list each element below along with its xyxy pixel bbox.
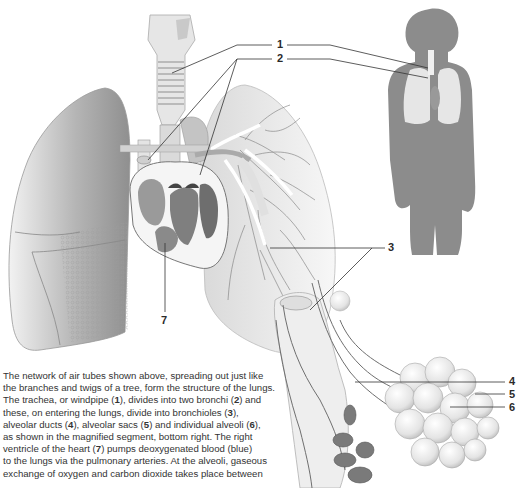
caption-line: these, on entering the lungs, divide int… (3, 407, 303, 419)
caption-line: the branches and twigs of a tree, form t… (3, 382, 303, 394)
caption-line: as shown in the magnified segment, botto… (3, 431, 303, 443)
alveolar-sac-cluster (385, 357, 499, 468)
body-silhouette (388, 8, 475, 255)
heart-cross-section (130, 162, 228, 269)
label-6-alveoli: 6 (509, 402, 515, 413)
label-2-bronchi: 2 (277, 53, 283, 64)
label-1-trachea: 1 (277, 39, 283, 50)
caption-line: to the lungs via the pulmonary arteries.… (3, 455, 303, 467)
figure-caption: The network of air tubes shown above, sp… (3, 370, 303, 480)
caption-line: ventricle of the heart (7) pumps deoxyge… (3, 443, 303, 455)
label-4-alveolar-ducts: 4 (509, 376, 515, 387)
caption-line: exchange of oxygen and carbon dioxide ta… (3, 468, 303, 480)
respiratory-diagram: 1 2 3 4 5 6 7 The network of air tubes s… (0, 0, 518, 488)
label-5-alveolar-sacs: 5 (509, 389, 515, 400)
caption-line: The trachea, or windpipe (1), divides in… (3, 394, 303, 406)
caption-line: alveolar ducts (4), alveolar sacs (5) an… (3, 419, 303, 431)
caption-line: The network of air tubes shown above, sp… (3, 370, 303, 382)
label-7-right-ventricle: 7 (161, 315, 167, 326)
label-3-bronchioles: 3 (388, 242, 394, 253)
trachea-illustration (148, 15, 195, 125)
